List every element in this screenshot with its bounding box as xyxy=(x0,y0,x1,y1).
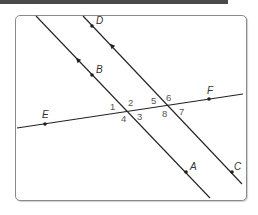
angle-label-1: 1 xyxy=(110,101,115,112)
point-label-F: F xyxy=(207,85,214,96)
point-label-E: E xyxy=(42,109,49,120)
point-label-D: D xyxy=(96,15,103,26)
angle-label-5: 5 xyxy=(151,95,156,106)
point-label-C: C xyxy=(234,161,242,172)
point-D xyxy=(90,24,94,28)
point-E xyxy=(43,122,47,126)
point-B xyxy=(90,73,94,77)
parallel-lines-diagram: DBEFAC 12345678 xyxy=(0,0,258,215)
line-DC xyxy=(83,16,242,184)
angle-label-4: 4 xyxy=(121,113,126,124)
point-label-B: B xyxy=(96,64,103,75)
angle-label-8: 8 xyxy=(162,108,167,119)
angle-label-2: 2 xyxy=(128,97,133,108)
point-A xyxy=(184,170,188,174)
angle-label-3: 3 xyxy=(137,111,142,122)
point-F xyxy=(207,97,211,101)
parallel-arrow-icon xyxy=(110,44,115,49)
point-label-A: A xyxy=(189,161,197,172)
angle-label-6: 6 xyxy=(166,92,171,103)
parallel-arrows-layer xyxy=(76,44,115,63)
points-layer: DBEFAC xyxy=(42,15,242,174)
angle-label-7: 7 xyxy=(179,106,184,117)
